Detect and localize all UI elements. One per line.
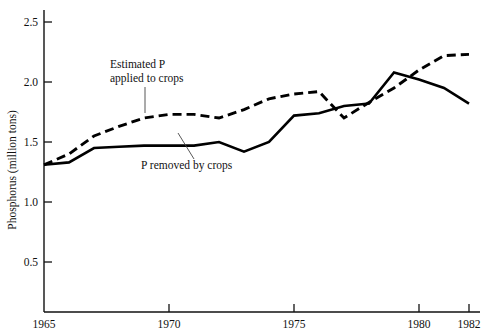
x-tick-label-1975: 1975 — [283, 318, 306, 330]
series-p-removed-by-crops — [44, 72, 469, 164]
x-tick-label-1965: 1965 — [33, 318, 56, 330]
x-axis-ticks: 1965 1970 1975 1980 1982 — [33, 304, 481, 330]
y-tick-label-1-5: 1.5 — [24, 136, 39, 148]
annotation-p-removed: P removed by crops — [141, 133, 233, 172]
y-tick-label-2-0: 2.0 — [24, 76, 39, 88]
y-axis-title: Phosphorus (million tons) — [6, 110, 19, 230]
y-tick-label-1-0: 1.0 — [24, 196, 39, 208]
chart-page: Phosphorus (million tons) 2.5 2.0 1.5 1.… — [0, 0, 494, 334]
annotation-estimated-p-line1: Estimated P — [110, 58, 165, 70]
annotation-estimated-p-line2: applied to crops — [110, 72, 184, 85]
annotation-p-removed-label: P removed by crops — [141, 159, 233, 172]
x-tick-label-1982: 1982 — [458, 318, 481, 330]
x-tick-label-1980: 1980 — [408, 318, 431, 330]
phosphorus-line-chart: Phosphorus (million tons) 2.5 2.0 1.5 1.… — [0, 0, 494, 334]
y-tick-label-0-5: 0.5 — [24, 256, 39, 268]
annotation-estimated-p-applied: Estimated P applied to crops — [110, 58, 184, 113]
y-axis-ticks: 2.5 2.0 1.5 1.0 0.5 — [24, 16, 52, 268]
y-tick-label-2-5: 2.5 — [24, 16, 39, 28]
x-tick-label-1970: 1970 — [158, 318, 181, 330]
